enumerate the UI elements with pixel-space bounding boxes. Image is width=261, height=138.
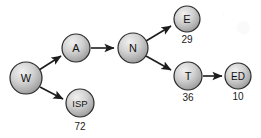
- edge-n-e: [146, 26, 171, 41]
- node-ed-label: ED: [231, 71, 245, 82]
- node-e[interactable]: E 29: [174, 6, 200, 45]
- node-e-value: 29: [181, 34, 193, 45]
- node-w-label: W: [21, 72, 32, 84]
- diagram-canvas: W A ISP 72 N E 29 T: [0, 0, 261, 138]
- node-isp[interactable]: ISP 72: [66, 89, 94, 132]
- edge-n-t: [146, 56, 171, 70]
- node-ed[interactable]: ED 10: [225, 63, 251, 102]
- edge-w-isp: [40, 87, 63, 99]
- nodes-group: W A ISP 72 N E 29 T: [10, 6, 251, 132]
- node-ed-value: 10: [232, 91, 244, 102]
- node-t-label: T: [185, 70, 192, 82]
- node-w[interactable]: W: [10, 62, 42, 94]
- graph-svg: W A ISP 72 N E 29 T: [0, 0, 261, 138]
- node-t[interactable]: T 36: [174, 62, 202, 103]
- node-a[interactable]: A: [62, 34, 90, 62]
- node-a-label: A: [72, 42, 80, 54]
- node-t-value: 36: [182, 92, 194, 103]
- node-isp-label: ISP: [72, 98, 87, 109]
- node-n-label: N: [129, 42, 137, 54]
- node-e-label: E: [183, 13, 190, 25]
- node-n[interactable]: N: [118, 33, 148, 63]
- edge-w-a: [39, 56, 61, 70]
- node-isp-value: 72: [74, 121, 86, 132]
